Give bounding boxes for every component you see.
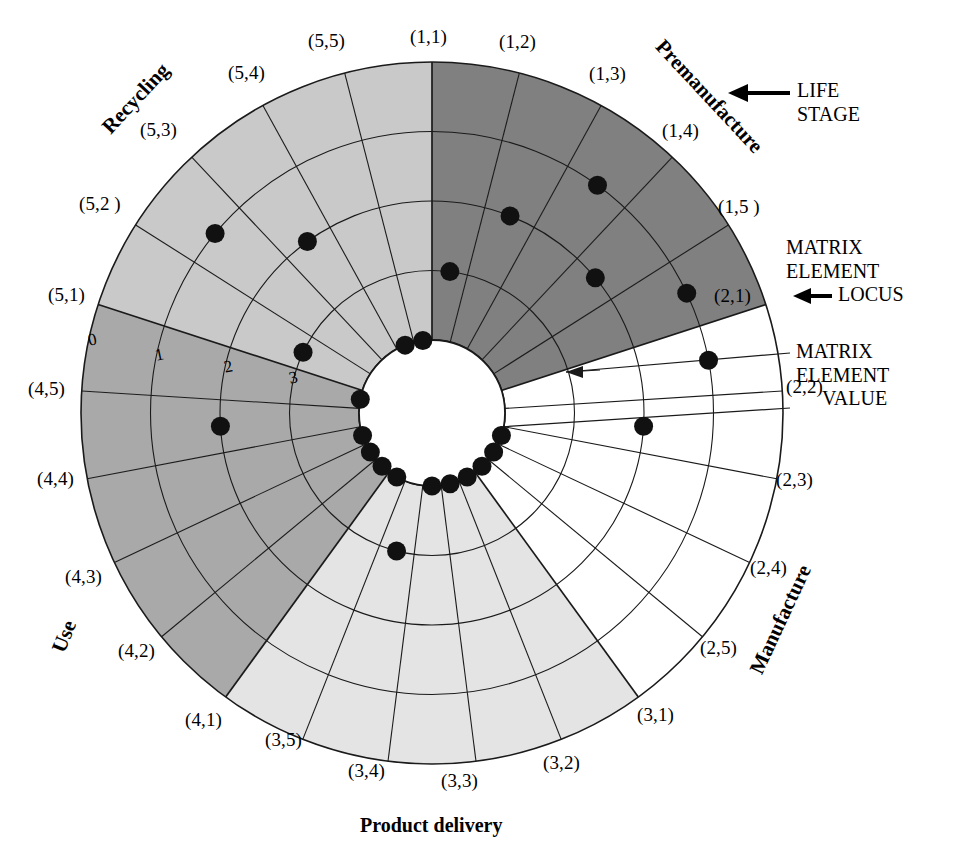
annotation-locus-line3: LOCUS bbox=[838, 283, 904, 307]
annotation-life-stage-line2: STAGE bbox=[797, 103, 860, 127]
data-point--4-5- bbox=[351, 390, 370, 409]
annotation-locus-line2: ELEMENT bbox=[786, 260, 904, 284]
data-point--1-1- bbox=[440, 262, 459, 281]
sector-label-3-3: (3,3) bbox=[441, 770, 478, 791]
data-point--5-2-- bbox=[206, 224, 225, 243]
data-point--4-4- bbox=[211, 417, 230, 436]
data-point--5-4- bbox=[396, 336, 415, 355]
data-point--1-2- bbox=[501, 206, 520, 225]
sector-label-2-3: (2,3) bbox=[776, 469, 813, 490]
sector-label-3-5: (3,5) bbox=[265, 729, 302, 750]
sector-label-4-4: (4,4) bbox=[37, 468, 74, 489]
data-point--5-1- bbox=[294, 343, 313, 362]
life-stage-arrow-icon bbox=[728, 84, 790, 102]
data-point--3-2- bbox=[441, 474, 460, 493]
sector-label-1-4: (1,4) bbox=[662, 120, 699, 141]
sector-label-3-1: (3,1) bbox=[637, 704, 674, 725]
sector-label-1-1: (1,1) bbox=[410, 26, 447, 47]
data-point--2-2- bbox=[634, 417, 653, 436]
annotation-life-stage: LIFE STAGE bbox=[797, 79, 860, 126]
sector-label-5-5: (5,5) bbox=[308, 30, 345, 51]
annotation-value-line3: VALUE bbox=[822, 387, 889, 411]
sector-label-4-1: (4,1) bbox=[185, 709, 222, 730]
sector-label-2-4: (2,4) bbox=[750, 557, 787, 578]
sector-label-2-5: (2,5) bbox=[700, 637, 737, 658]
data-point--2-1- bbox=[699, 351, 718, 370]
sector-label-5-1: (5,1) bbox=[48, 284, 85, 305]
sector-label-4-5: (4,5) bbox=[28, 378, 65, 399]
sector-label-1-3: (1,3) bbox=[589, 63, 626, 84]
sector-label-3-4: (3,4) bbox=[348, 760, 385, 781]
data-point--4-2- bbox=[361, 443, 380, 462]
data-point--2-3- bbox=[492, 426, 511, 445]
data-point--3-4- bbox=[387, 542, 406, 561]
data-point--1-5-- bbox=[677, 284, 696, 303]
sector-label-1-5: (1,5 ) bbox=[718, 196, 760, 217]
data-point--1-4- bbox=[586, 268, 605, 287]
data-point--5-3- bbox=[298, 232, 317, 251]
sector-label-5-3: (5,3) bbox=[140, 119, 177, 140]
figure-canvas: (1,1) (1,2) (1,3) (1,4) (1,5 ) (2,1) (2,… bbox=[0, 0, 972, 866]
data-point--3-3- bbox=[423, 477, 442, 496]
sector-label-1-2: (1,2) bbox=[499, 31, 536, 52]
annotation-life-stage-line1: LIFE bbox=[797, 79, 860, 103]
annotation-locus-line1: MATRIX bbox=[786, 236, 904, 260]
annotation-matrix-element-locus: MATRIX ELEMENT LOCUS bbox=[786, 236, 904, 307]
data-point--3-1- bbox=[458, 467, 477, 486]
data-point--1-3- bbox=[588, 176, 607, 195]
data-point--5-5- bbox=[413, 331, 432, 350]
annotation-value-line2: ELEMENT bbox=[796, 364, 889, 388]
sector-label-2-1: (2,1) bbox=[714, 285, 751, 306]
figure-caption: Product delivery bbox=[360, 814, 502, 837]
sector-label-4-2: (4,2) bbox=[118, 640, 155, 661]
sector-label-4-3: (4,3) bbox=[65, 566, 102, 587]
sector-label-5-2: (5,2 ) bbox=[79, 193, 121, 214]
data-point--4-3- bbox=[353, 426, 372, 445]
sector-label-3-2: (3,2) bbox=[543, 752, 580, 773]
annotation-matrix-element-value: MATRIX ELEMENT VALUE bbox=[796, 340, 889, 411]
sector-label-5-4: (5,4) bbox=[228, 62, 265, 83]
annotation-value-line1: MATRIX bbox=[796, 340, 889, 364]
